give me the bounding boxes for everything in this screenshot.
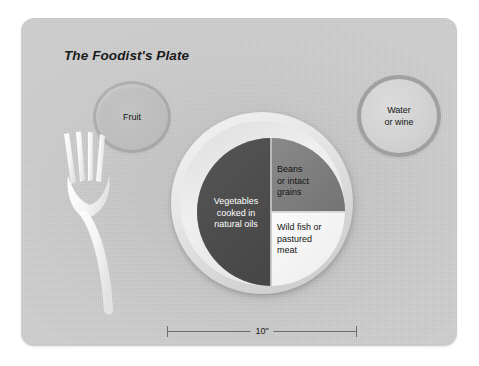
water-glass-label-line1: Water: [387, 105, 411, 115]
plate-rim: Vegetables cooked in natural oils Beans …: [180, 121, 344, 285]
plate-diameter-dimension: 10": [167, 323, 357, 339]
water-glass-label-line2: or wine: [384, 116, 413, 126]
water-glass-label: Water or wine: [361, 105, 437, 128]
dimension-cap-left: [167, 326, 168, 337]
plate-section-fish: [271, 212, 345, 286]
fork-icon: [57, 130, 123, 316]
plate-section-beans: [271, 138, 345, 212]
fruit-bowl-label: Fruit: [93, 112, 171, 122]
plate-divider-horizontal: [271, 211, 345, 213]
plate-section-vegetables: [197, 138, 271, 286]
plate: Vegetables cooked in natural oils Beans …: [171, 112, 353, 294]
dimension-label: 10": [250, 323, 273, 339]
dimension-cap-right: [356, 326, 357, 337]
water-glass: Water or wine: [357, 75, 441, 157]
plate-food-area: Vegetables cooked in natural oils Beans …: [197, 138, 345, 286]
page-title: The Foodist's Plate: [64, 48, 189, 63]
placemat: The Foodist's Plate Fruit Water or wine: [21, 18, 457, 346]
